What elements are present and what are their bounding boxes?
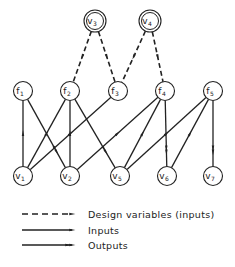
arrowhead-icon bbox=[212, 149, 214, 155]
node-v3: v3 bbox=[84, 10, 106, 32]
dependency-graph: v3v4f1f2f3f4f5v1v2v5v6v7 Design variable… bbox=[0, 0, 235, 267]
legend-label: Design variables (inputs) bbox=[88, 209, 214, 220]
node-f5: f5 bbox=[204, 82, 223, 101]
node-f2: f2 bbox=[61, 82, 80, 101]
legend-item-design: Design variables (inputs) bbox=[22, 209, 214, 220]
nodes: v3v4f1f2f3f4f5v1v2v5v6v7 bbox=[14, 10, 223, 186]
node-v2: v2 bbox=[61, 167, 80, 186]
edge-f2-v5 bbox=[75, 99, 115, 168]
node-f3: f3 bbox=[109, 82, 128, 101]
legend-item-output: Outputs bbox=[22, 240, 128, 251]
legend-item-input: Inputs bbox=[22, 225, 119, 236]
arrowhead-icon bbox=[81, 54, 84, 60]
edge-v4-f3 bbox=[122, 31, 145, 82]
node-f1: f1 bbox=[14, 82, 33, 101]
arrowhead-icon bbox=[69, 244, 75, 247]
arrowhead-icon bbox=[22, 130, 24, 136]
edge-v1-f1 bbox=[22, 101, 24, 167]
node-v6: v6 bbox=[158, 167, 177, 186]
arrowhead-icon bbox=[165, 149, 167, 155]
node-v4: v4 bbox=[139, 10, 161, 32]
edge-v6-f5 bbox=[172, 99, 209, 167]
node-v7: v7 bbox=[204, 167, 223, 186]
arrowhead-icon bbox=[69, 213, 75, 216]
arrowhead-icon bbox=[105, 54, 108, 60]
edge-v3-f2 bbox=[73, 31, 91, 82]
edge-v5-f4 bbox=[124, 99, 160, 167]
node-f4: f4 bbox=[156, 82, 175, 101]
arrowhead-icon bbox=[156, 54, 158, 60]
edge-v2-f4 bbox=[77, 97, 158, 169]
node-v1: v1 bbox=[14, 167, 33, 186]
arrowhead-icon bbox=[69, 229, 75, 232]
node-v5: v5 bbox=[111, 167, 130, 186]
legend: Design variables (inputs)InputsOutputs bbox=[22, 209, 214, 251]
edge-f5-v7 bbox=[212, 101, 214, 167]
edge-v3-f3 bbox=[98, 31, 115, 82]
legend-label: Inputs bbox=[88, 225, 119, 236]
legend-label: Outputs bbox=[88, 240, 128, 251]
edge-v4-f4 bbox=[152, 32, 163, 82]
output-edge-line bbox=[75, 99, 115, 168]
arrowhead-icon bbox=[140, 131, 144, 137]
